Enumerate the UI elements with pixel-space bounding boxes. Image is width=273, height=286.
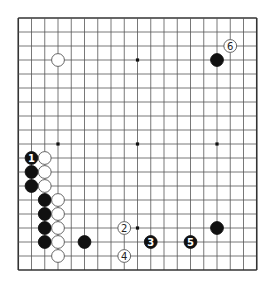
stone-circle bbox=[25, 180, 38, 193]
star-point bbox=[56, 142, 59, 145]
black-stone bbox=[25, 166, 38, 179]
white-stone bbox=[52, 250, 65, 263]
black-stone: 3 bbox=[144, 236, 157, 249]
star-point bbox=[136, 142, 139, 145]
black-stone: 1 bbox=[25, 152, 38, 165]
move-number-label: 4 bbox=[121, 251, 127, 262]
stone-circle bbox=[38, 166, 51, 179]
stone-circle bbox=[52, 250, 65, 263]
stone-circle bbox=[25, 166, 38, 179]
stone-circle bbox=[78, 236, 91, 249]
stone-circle bbox=[52, 54, 65, 67]
black-stone bbox=[25, 180, 38, 193]
white-stone bbox=[52, 54, 65, 67]
black-stone bbox=[38, 222, 51, 235]
black-stone bbox=[38, 208, 51, 221]
star-point bbox=[136, 58, 139, 61]
stone-circle bbox=[38, 236, 51, 249]
star-point bbox=[136, 226, 139, 229]
stone-circle bbox=[52, 208, 65, 221]
black-stone bbox=[38, 236, 51, 249]
white-stone bbox=[38, 180, 51, 193]
white-stone bbox=[52, 222, 65, 235]
move-number-label: 6 bbox=[227, 41, 233, 52]
white-stone bbox=[52, 236, 65, 249]
move-number-label: 3 bbox=[147, 237, 154, 248]
white-stone: 2 bbox=[118, 222, 131, 235]
stones-layer: 612345 bbox=[25, 40, 237, 263]
stone-circle bbox=[211, 54, 224, 67]
stone-circle bbox=[38, 180, 51, 193]
stone-circle bbox=[38, 208, 51, 221]
move-number-label: 5 bbox=[187, 237, 194, 248]
black-stone: 5 bbox=[184, 236, 197, 249]
star-point bbox=[215, 142, 218, 145]
white-stone bbox=[38, 152, 51, 165]
black-stone bbox=[211, 54, 224, 67]
white-stone bbox=[52, 194, 65, 207]
stone-circle bbox=[52, 222, 65, 235]
stone-circle bbox=[52, 194, 65, 207]
stone-circle bbox=[52, 236, 65, 249]
white-stone: 4 bbox=[118, 250, 131, 263]
white-stone bbox=[52, 208, 65, 221]
stone-circle bbox=[38, 194, 51, 207]
move-number-label: 2 bbox=[121, 223, 127, 234]
move-number-label: 1 bbox=[28, 153, 35, 164]
go-board: 612345 bbox=[0, 0, 273, 286]
white-stone bbox=[38, 166, 51, 179]
black-stone bbox=[38, 194, 51, 207]
stone-circle bbox=[38, 222, 51, 235]
white-stone: 6 bbox=[224, 40, 237, 53]
stone-circle bbox=[211, 222, 224, 235]
black-stone bbox=[211, 222, 224, 235]
black-stone bbox=[78, 236, 91, 249]
stone-circle bbox=[38, 152, 51, 165]
